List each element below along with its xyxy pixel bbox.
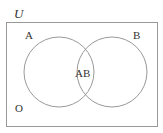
outside-label: O bbox=[15, 102, 23, 114]
set-b-label: B bbox=[133, 29, 140, 41]
universe-label: U bbox=[14, 6, 25, 21]
intersection-label: AB bbox=[75, 67, 90, 79]
set-a-label: A bbox=[25, 29, 33, 41]
venn-diagram: U A B AB O bbox=[0, 0, 163, 133]
